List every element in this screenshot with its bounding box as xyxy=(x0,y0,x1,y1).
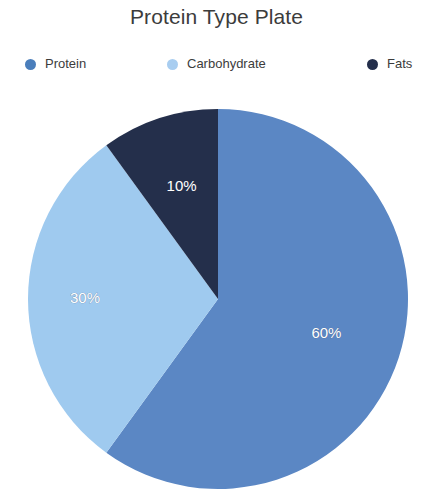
pie-label-fats: 10% xyxy=(167,177,197,194)
pie-label-carbohydrate: 30% xyxy=(70,289,100,306)
pie-chart-area: 60% 30% 10% xyxy=(0,0,433,499)
pie-chart-page: Protein Type Plate Protein Carbohydrate … xyxy=(0,0,433,499)
pie-label-protein: 60% xyxy=(311,324,341,341)
pie-chart-svg: 60% 30% 10% xyxy=(0,0,433,499)
